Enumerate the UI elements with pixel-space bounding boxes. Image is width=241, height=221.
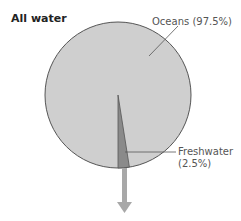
oceans-label: Oceans (97.5%) <box>152 16 232 28</box>
freshwater-label: Freshwater <box>178 146 233 158</box>
arrow-down-icon <box>117 202 132 213</box>
arrow-shaft <box>122 168 127 204</box>
freshwater-percent: (2.5%) <box>178 158 211 170</box>
pie-chart <box>0 0 241 221</box>
